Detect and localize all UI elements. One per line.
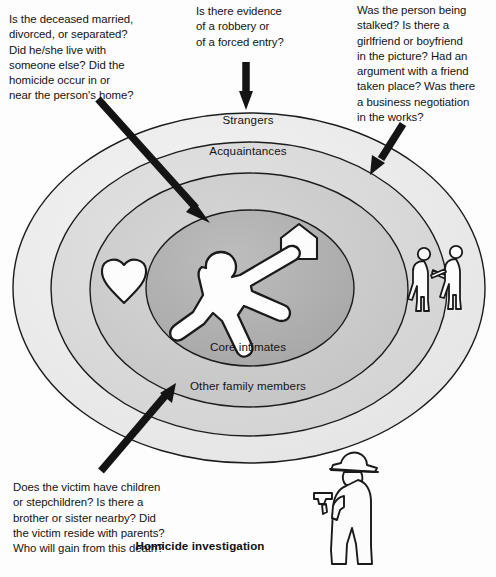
ring-label-strangers: Strangers: [0, 113, 496, 126]
ring-label-core-intimates: Core intimates: [0, 340, 496, 353]
ring-label-acquaintances: Acquaintances: [0, 144, 496, 157]
annotation-stalked-questions: Was the person being stalked? Is there a…: [357, 3, 496, 125]
figure-caption: Homicide investigation: [0, 539, 400, 552]
annotation-married-questions: Is the deceased married, divorced, or se…: [9, 12, 199, 104]
annotation-robbery-questions: Is there evidence of a robbery or of a f…: [196, 4, 316, 50]
ring-label-other-family-members: Other family members: [0, 379, 496, 392]
diagram-page: Is the deceased married, divorced, or se…: [0, 0, 496, 577]
arrow-robbery-to-strangers: [239, 62, 253, 110]
